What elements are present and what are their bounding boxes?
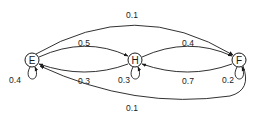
loop-E (28, 67, 36, 79)
edge-label-E-H: 0.5 (78, 38, 90, 48)
node-F: F (232, 53, 246, 67)
edge-label-H-F: 0.4 (182, 38, 194, 48)
edge-label-F-H: 0.7 (182, 76, 194, 86)
edge-label-E-E: 0.4 (9, 75, 21, 85)
edge-label-H-E: 0.3 (78, 76, 90, 86)
node-label-H: H (131, 55, 138, 66)
loop-H (131, 67, 139, 79)
edge-F-H (142, 64, 232, 72)
edge-label-E-F: 0.1 (126, 10, 138, 20)
state-diagram: E H F 0.1 0.5 0.4 0.3 0.7 0.1 0.4 0.3 0.… (0, 0, 257, 117)
edge-label-F-E: 0.1 (126, 103, 138, 113)
edge-E-F (36, 25, 233, 55)
loop-F (235, 67, 243, 79)
edge-label-F-F: 0.2 (222, 75, 234, 85)
edge-label-H-H: 0.3 (118, 75, 130, 85)
node-H: H (128, 53, 142, 67)
edge-H-E (39, 64, 128, 72)
node-E: E (25, 53, 39, 67)
node-label-F: F (236, 55, 242, 66)
node-label-E: E (29, 55, 36, 66)
